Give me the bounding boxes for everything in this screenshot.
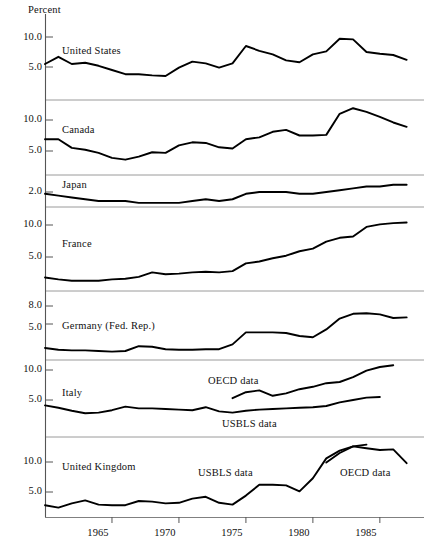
series-line-germany-fed-rep- bbox=[45, 313, 407, 351]
chart-root: Percent 10.0 5.0 10.0 5.0 2.0 10.0 5.0 8… bbox=[0, 0, 426, 553]
ytick-italy-10: 10.0 bbox=[8, 363, 42, 374]
ytick-germany-8: 8.0 bbox=[8, 299, 42, 310]
series-line-france bbox=[45, 222, 407, 280]
panel-label-canada: Canada bbox=[62, 124, 95, 135]
ytick-uk-5: 5.0 bbox=[8, 485, 42, 496]
ytick-germany-5: 5.0 bbox=[8, 321, 42, 332]
series-line-italy-usbls bbox=[45, 397, 380, 413]
ytick-us-5: 5.0 bbox=[8, 61, 42, 72]
xtick-1980: 1980 bbox=[279, 527, 319, 538]
series-line-canada bbox=[45, 108, 407, 159]
ytick-canada-10: 10.0 bbox=[8, 113, 42, 124]
ytick-france-5: 5.0 bbox=[8, 250, 42, 261]
ytick-uk-10: 10.0 bbox=[8, 455, 42, 466]
ytick-japan-2: 2.0 bbox=[8, 185, 42, 196]
panel-label-japan: Japan bbox=[62, 179, 87, 190]
panel-label-italy: Italy bbox=[62, 387, 82, 398]
annotation-uk-usbls: USBLS data bbox=[198, 467, 253, 478]
annotation-italy-usbls: USBLS data bbox=[222, 418, 277, 429]
panel-label-germany: Germany (Fed. Rep.) bbox=[62, 320, 155, 331]
xtick-1975: 1975 bbox=[212, 527, 252, 538]
xtick-1985: 1985 bbox=[346, 527, 386, 538]
ytick-france-10: 10.0 bbox=[8, 218, 42, 229]
xtick-1965: 1965 bbox=[78, 527, 118, 538]
series-line-japan bbox=[45, 185, 407, 203]
panel-label-france: France bbox=[62, 238, 92, 249]
panel-label-united-kingdom: United Kingdom bbox=[62, 461, 136, 472]
ytick-italy-5: 5.0 bbox=[8, 393, 42, 404]
ytick-us-10: 10.0 bbox=[8, 31, 42, 42]
panel-label-united-states: United States bbox=[62, 45, 121, 56]
ytick-canada-5: 5.0 bbox=[8, 144, 42, 155]
xtick-1970: 1970 bbox=[145, 527, 185, 538]
series-line-united-kingdom-oecd bbox=[326, 446, 406, 463]
annotation-italy-oecd: OECD data bbox=[208, 375, 259, 386]
annotation-uk-oecd: OECD data bbox=[340, 467, 391, 478]
